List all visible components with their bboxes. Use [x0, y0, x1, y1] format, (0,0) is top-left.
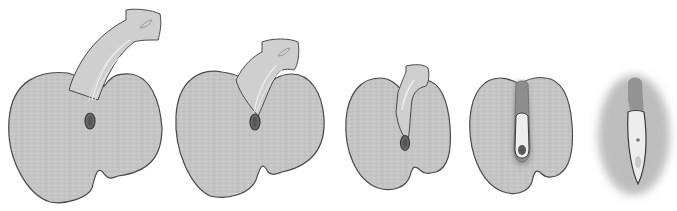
- panel-5: [598, 75, 670, 195]
- figure-canvas: [0, 0, 677, 211]
- panel-3: [346, 65, 451, 190]
- core-4: [518, 145, 526, 155]
- panel-4: [470, 77, 573, 193]
- panel-1: [9, 9, 162, 202]
- panel-2: [176, 39, 324, 197]
